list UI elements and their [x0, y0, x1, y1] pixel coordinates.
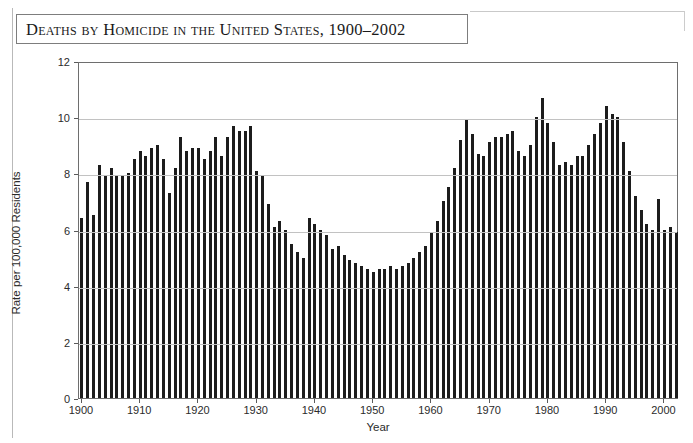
bar-2001 [669, 227, 672, 398]
bar-1976 [523, 156, 526, 398]
bar-1915 [168, 193, 171, 398]
bar-1921 [203, 159, 206, 398]
bar-1902 [92, 215, 95, 398]
bar-1965 [459, 140, 462, 398]
bar-1924 [220, 156, 223, 398]
bar-1943 [331, 249, 334, 398]
y-tick-label-4: 4 [36, 282, 70, 293]
bar-1963 [447, 187, 450, 398]
x-tick-mark-1980 [547, 399, 548, 403]
bar-1905 [110, 168, 113, 398]
plot-area [78, 62, 678, 399]
bar-1953 [389, 266, 392, 398]
page-rule-top-right [470, 11, 685, 12]
bar-1955 [401, 266, 404, 398]
bar-1986 [581, 156, 584, 398]
x-tick-label-1920: 1920 [167, 404, 227, 416]
bar-1900 [80, 218, 83, 398]
x-tick-label-1960: 1960 [400, 404, 460, 416]
bar-1998 [651, 230, 654, 399]
y-tick-mark-0 [74, 399, 78, 400]
y-tick-label-2: 2 [36, 338, 70, 349]
bar-1936 [290, 244, 293, 398]
x-tick-mark-1920 [197, 399, 198, 403]
bar-1928 [244, 131, 247, 398]
y-tick-label-10: 10 [36, 113, 70, 124]
bar-1968 [477, 154, 480, 398]
y-tick-mark-6 [74, 231, 78, 232]
bar-1979 [541, 98, 544, 398]
gridline-8 [79, 175, 677, 176]
bar-1989 [599, 123, 602, 398]
bar-1957 [412, 258, 415, 398]
bar-1930 [255, 171, 258, 398]
bar-1920 [197, 148, 200, 398]
bar-1939 [308, 218, 311, 398]
y-tick-mark-2 [74, 343, 78, 344]
bar-1991 [611, 114, 614, 398]
bar-1945 [343, 255, 346, 398]
homicide-rate-figure: Deaths by Homicide in the United States,… [0, 0, 693, 443]
bar-1934 [278, 221, 281, 398]
bar-2002 [675, 232, 678, 398]
bar-1958 [418, 252, 421, 398]
x-tick-mark-1910 [139, 399, 140, 403]
x-axis-label: Year [78, 421, 678, 433]
bar-1974 [511, 131, 514, 398]
bar-1956 [407, 263, 410, 398]
bar-1901 [86, 182, 89, 398]
bar-1990 [605, 106, 608, 398]
bar-1918 [185, 151, 188, 398]
x-tick-mark-1970 [489, 399, 490, 403]
y-axis-label-wrap: Rate per 100,000 Residents [18, 62, 38, 399]
x-tick-label-1970: 1970 [459, 404, 519, 416]
bar-1985 [576, 156, 579, 398]
bar-1987 [587, 145, 590, 398]
x-tick-label-2000: 2000 [633, 404, 693, 416]
bar-1994 [628, 171, 631, 398]
bar-1922 [209, 151, 212, 398]
x-tick-mark-1940 [314, 399, 315, 403]
bar-1969 [482, 156, 485, 398]
x-tick-mark-1960 [430, 399, 431, 403]
x-tick-label-1990: 1990 [575, 404, 635, 416]
gridline-10 [79, 119, 677, 120]
gridline-6 [79, 232, 677, 233]
y-axis-label: Rate per 100,000 Residents [10, 63, 22, 423]
bar-1967 [471, 134, 474, 398]
bar-1909 [133, 159, 136, 398]
bar-1933 [273, 227, 276, 398]
bar-1960 [430, 232, 433, 398]
bar-1935 [284, 230, 287, 399]
bar-1910 [139, 151, 142, 398]
bar-1999 [657, 199, 660, 398]
bar-1913 [156, 145, 159, 398]
chart-title: Deaths by Homicide in the United States,… [26, 19, 462, 41]
bar-1970 [488, 142, 491, 398]
bar-1981 [552, 142, 555, 398]
y-tick-mark-4 [74, 287, 78, 288]
bar-1964 [453, 168, 456, 398]
x-tick-label-1930: 1930 [226, 404, 286, 416]
bar-2000 [663, 230, 666, 399]
bar-1912 [150, 148, 153, 398]
bar-1919 [191, 148, 194, 398]
x-tick-label-1900: 1900 [51, 404, 111, 416]
bar-1941 [319, 230, 322, 399]
bar-1942 [325, 235, 328, 398]
bar-1975 [517, 151, 520, 398]
bar-1977 [529, 145, 532, 398]
bar-1938 [302, 258, 305, 398]
x-tick-mark-1930 [256, 399, 257, 403]
bar-1903 [98, 165, 101, 398]
bar-series [79, 63, 677, 398]
bar-1932 [267, 204, 270, 398]
x-tick-label-1940: 1940 [284, 404, 344, 416]
x-tick-mark-1950 [372, 399, 373, 403]
bar-1992 [616, 117, 619, 398]
bar-1946 [348, 260, 351, 398]
x-tick-mark-1990 [605, 399, 606, 403]
y-tick-label-6: 6 [36, 226, 70, 237]
bar-1911 [144, 156, 147, 398]
bar-1914 [162, 159, 165, 398]
